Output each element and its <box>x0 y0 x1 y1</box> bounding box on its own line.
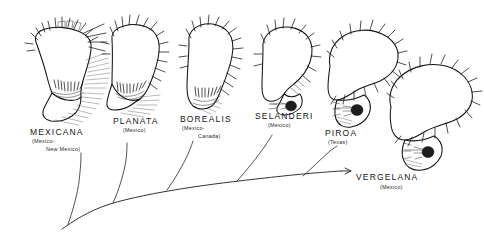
taxon-name-planata: PLANATA <box>113 116 159 126</box>
taxon-name-borealis: BOREALIS <box>180 114 232 124</box>
taxon-range-borealis-line2: Canada) <box>198 133 221 139</box>
taxon-name-piroa: PIROA <box>325 128 357 138</box>
taxon-range-piroa: (Texas) <box>328 139 348 145</box>
taxon-range-mexicana-line1: (Mexico- <box>32 138 55 144</box>
taxon-range-mexicana-line2: New Mexico) <box>46 146 80 152</box>
phylogeny-figure: MEXICANA (Mexico- New Mexico) PLANATA (M… <box>0 0 484 250</box>
taxon-range-borealis-line1: (Mexico- <box>182 125 205 131</box>
taxon-range-planata: (Mexico) <box>123 127 146 133</box>
taxon-range-vergelana: (Mexico) <box>380 184 403 190</box>
taxon-name-selanderi: SELANDERI <box>255 111 314 121</box>
figure-plate: MEXICANA (Mexico- New Mexico) PLANATA (M… <box>0 0 484 250</box>
taxon-name-mexicana: MEXICANA <box>30 127 84 137</box>
taxon-range-selanderi: (Mexico) <box>268 122 291 128</box>
taxon-name-vergelana: VERGELANA <box>356 172 418 182</box>
